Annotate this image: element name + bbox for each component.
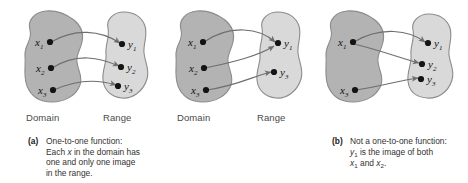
dot-x3 xyxy=(50,87,56,93)
dot-x3 xyxy=(203,87,209,93)
dot-y1 xyxy=(425,40,431,46)
dot-y3 xyxy=(418,76,424,82)
function-mapping-figure: x1 x2 x3 y1 y2 y3 Domain Range (a) One-t… xyxy=(0,0,468,183)
range-label: Range xyxy=(103,112,132,123)
panel-a-set-labels: Domain Range xyxy=(0,112,156,128)
panel-b-set-labels: Domain Range xyxy=(152,112,310,128)
dot-x1 xyxy=(47,39,53,45)
panel-c: x1 x3 y1 y2 y3 (c) Not a function: x1 ha… xyxy=(305,0,468,183)
panel-b: x1 x2 x3 y1 y3 Domain Range (b) Not a on… xyxy=(152,0,310,183)
dot-x3 xyxy=(352,87,358,93)
dot-y1 xyxy=(275,40,281,46)
caption-line-1: One-to-one function: xyxy=(46,136,140,147)
panel-c-diagram: x1 x3 y1 y2 y3 xyxy=(305,0,468,112)
dot-y3 xyxy=(115,83,121,89)
caption-line-3: one and only one image xyxy=(46,157,140,168)
dot-y3 xyxy=(271,69,277,75)
panel-b-diagram: x1 x2 x3 y1 y3 xyxy=(152,0,310,112)
range-label: Range xyxy=(257,112,286,123)
dot-x1 xyxy=(200,39,206,45)
panel-a: x1 x2 x3 y1 y2 y3 Domain Range (a) One-t… xyxy=(0,0,156,183)
caption-line-4: in the range. xyxy=(46,168,140,179)
range-blob xyxy=(257,12,302,98)
dot-x2 xyxy=(48,65,54,71)
dot-y2 xyxy=(118,64,124,70)
panel-a-tag: (a) xyxy=(28,136,38,147)
dot-x1 xyxy=(350,39,356,45)
panel-a-diagram: x1 x2 x3 y1 y2 y3 xyxy=(0,0,156,112)
domain-label: Domain xyxy=(177,112,210,123)
dot-y1 xyxy=(119,41,125,47)
dot-x2 xyxy=(201,65,207,71)
domain-label: Domain xyxy=(26,112,59,123)
range-blob xyxy=(408,14,453,98)
caption-line-2: Each x in the domain has xyxy=(46,147,140,158)
dot-y2 xyxy=(419,61,425,67)
